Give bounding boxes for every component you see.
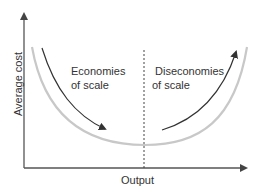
economies-label-line2: of scale — [71, 79, 109, 91]
cost-curve-diagram — [0, 0, 260, 189]
y-axis-label: Average cost — [12, 44, 24, 124]
x-axis-label: Output — [121, 174, 154, 186]
economies-label-line1: Economies — [71, 65, 125, 77]
diseconomies-arrow — [162, 52, 236, 130]
diseconomies-label-line1: Diseconomies — [155, 65, 224, 77]
diseconomies-label-line2: of scale — [152, 79, 190, 91]
